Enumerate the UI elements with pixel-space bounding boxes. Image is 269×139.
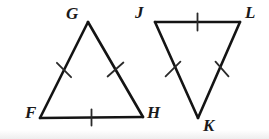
vertex-label-L: L — [245, 4, 255, 21]
vertex-label-J: J — [135, 4, 144, 21]
triangle-JKL — [155, 14, 240, 119]
side-LK — [198, 22, 240, 118]
vertex-label-K: K — [203, 117, 214, 134]
tick-FG-icon — [57, 63, 71, 77]
triangle-FGH — [40, 22, 143, 126]
vertex-label-H: H — [147, 104, 160, 121]
vertex-label-F: F — [25, 104, 36, 121]
vertex-label-G: G — [66, 5, 78, 22]
side-JK — [155, 22, 198, 118]
geometry-figure: F G H J K L — [0, 0, 269, 139]
tick-GH-icon — [108, 63, 124, 77]
